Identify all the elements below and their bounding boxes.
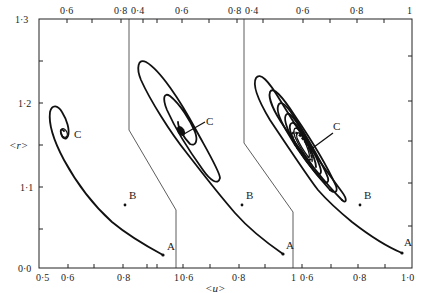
y-axis-label: <r> xyxy=(9,139,28,151)
right-axis-ticks xyxy=(408,56,412,226)
p3-top-tick-0-6: 0·6 xyxy=(296,5,309,16)
p1-label-a: A xyxy=(167,240,175,252)
p3-label-a: A xyxy=(404,236,412,248)
p1-point-a xyxy=(161,253,164,256)
p2-bottom-tick-0-6: 0·6 xyxy=(180,272,193,283)
divider-1-2 xyxy=(129,19,176,268)
plot-frame xyxy=(39,19,412,268)
p1-top-tick-0-8: 0·8 xyxy=(114,5,127,16)
p3-label-c: C xyxy=(333,120,340,132)
panel-3-trajectory: A B C xyxy=(255,76,412,255)
p2-label-c: C xyxy=(206,115,213,127)
p1-label-c: C xyxy=(74,128,81,140)
p3-point-a xyxy=(400,251,403,254)
p3-point-b xyxy=(359,204,362,207)
p1-label-b: B xyxy=(129,189,136,201)
top-axis-ticks xyxy=(67,19,384,23)
p2-point-a xyxy=(281,252,284,255)
p3-top-tick-0-4: 0·4 xyxy=(245,5,258,16)
p2-top-tick-0-8: 0·8 xyxy=(228,5,241,16)
p2-label-a: A xyxy=(286,239,294,251)
y-axis-ticks xyxy=(39,61,43,229)
p2-bottom-tick-0-8: 0·8 xyxy=(232,272,245,283)
x-axis-label: <u> xyxy=(205,282,225,293)
p3-bottom-tick-0-8: 0·8 xyxy=(353,272,366,283)
p1-point-b xyxy=(124,204,127,207)
p1-bottom-tick-1: 1 xyxy=(174,272,179,283)
p3-bottom-tick-1-0: 1·0 xyxy=(401,272,414,283)
bottom-axis-ticks xyxy=(68,264,385,268)
p2-point-b xyxy=(241,204,244,207)
panel-1-trajectory: A B C xyxy=(50,106,175,256)
p1-bottom-tick-0-5: 0·5 xyxy=(36,272,49,283)
p3-bottom-tick-0-6: 0·6 xyxy=(300,272,313,283)
p1-bottom-tick-0-8: 0·8 xyxy=(117,272,130,283)
y-tick-0-0: 0·0 xyxy=(18,263,31,274)
p2-top-tick-0-4: 0·4 xyxy=(131,5,144,16)
p3-top-tick-0-8: 0·8 xyxy=(350,5,363,16)
y-tick-1-1: 1·1 xyxy=(20,182,33,193)
p2-top-tick-0-6: 0·6 xyxy=(175,5,188,16)
p2-label-b: B xyxy=(246,189,253,201)
y-tick-1-2: 1·2 xyxy=(18,98,31,109)
p3-top-tick-1: 1 xyxy=(407,5,412,16)
p3-label-b: B xyxy=(364,189,371,201)
p2-bottom-tick-1: 1 xyxy=(291,272,296,283)
y-tick-1-3: 1·3 xyxy=(15,14,28,25)
p1-bottom-tick-0-6: 0·6 xyxy=(61,272,74,283)
p1-top-tick-0-6: 0·6 xyxy=(60,5,73,16)
phase-plane-figure: 1·3 1·2 1·1 0·0 <r> 0·5 0·6 0·8 1 0·6 0·… xyxy=(0,0,422,293)
